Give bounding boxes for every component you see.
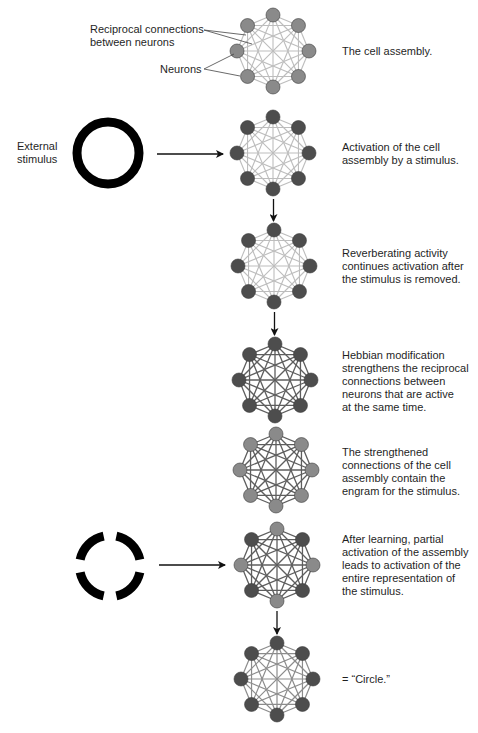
external-stimulus-label: External stimulus — [17, 140, 57, 166]
neuron-node-active — [268, 409, 282, 423]
caption-line: = “Circle.” — [342, 673, 390, 686]
neuron-node-active — [270, 636, 284, 650]
neuron-node-inactive — [291, 69, 305, 83]
neuron-node-active — [231, 259, 245, 273]
neuron-node-inactive — [305, 463, 319, 477]
neuron-node-active — [241, 171, 255, 185]
neuron-node-inactive — [241, 19, 255, 33]
leader-line-neurons-2 — [204, 69, 240, 76]
caption-reverberation: Reverberating activity continues activat… — [342, 247, 464, 286]
neuron-node-active — [304, 373, 318, 387]
caption-line: connections of the cell — [342, 459, 460, 472]
caption-line: at the same time. — [342, 401, 469, 414]
neuron-node-active — [295, 647, 309, 661]
neuron-node-active — [245, 697, 259, 711]
neuron-node-inactive — [244, 488, 258, 502]
neuron-node-active — [291, 171, 305, 185]
caption-line: After learning, partial — [342, 533, 469, 546]
caption-line: leads to activation of the — [342, 559, 469, 572]
neuron-node-active — [230, 146, 244, 160]
neuron-node-inactive — [230, 44, 244, 58]
caption-line: connections between — [342, 375, 469, 388]
caption-line: the stimulus. — [342, 585, 469, 598]
connections-label: Reciprocal connections between neurons — [90, 23, 204, 49]
neuron-node-inactive — [294, 438, 308, 452]
caption-line: entire representation of — [342, 572, 469, 585]
caption-circle-recall: = “Circle.” — [342, 673, 390, 686]
neuron-node-active — [241, 121, 255, 135]
neuron-node-inactive — [266, 8, 280, 22]
neuron-node-inactive — [233, 463, 247, 477]
neuron-node-inactive — [266, 80, 280, 94]
stimulus-arc-segment — [116, 572, 139, 595]
stimulus-arc-segment — [80, 536, 103, 559]
caption-line: the stimulus is removed. — [342, 273, 464, 286]
neuron-node-inactive — [269, 499, 283, 513]
cell-assembly-reverberation — [231, 223, 317, 309]
neuron-node-inactive — [302, 44, 316, 58]
caption-line: The strengthened — [342, 446, 460, 459]
caption-line: Hebbian modification — [342, 349, 469, 362]
neuron-node-active — [291, 121, 305, 135]
neuron-node-inactive — [291, 19, 305, 33]
neuron-node-active — [267, 223, 281, 237]
neuron-node-active — [245, 533, 259, 547]
cell-assembly-cell-assembly — [230, 8, 316, 94]
neuron-node-active — [293, 398, 307, 412]
neuron-node-active — [292, 284, 306, 298]
external-stimulus-label-line: stimulus — [17, 153, 57, 166]
neuron-node-active — [293, 348, 307, 362]
connections-label-line: between neurons — [90, 36, 204, 49]
neuron-node-inactive — [294, 488, 308, 502]
neuron-node-inactive — [306, 558, 320, 572]
neuron-node-active — [295, 697, 309, 711]
caption-line: continues activation after — [342, 260, 464, 273]
neuron-node-active — [306, 672, 320, 686]
caption-line: assembly contain the — [342, 472, 460, 485]
neuron-node-inactive — [270, 594, 284, 608]
cell-assembly-engram — [233, 427, 319, 513]
neuron-node-inactive — [269, 427, 283, 441]
neuron-node-inactive — [241, 69, 255, 83]
neuron-node-active — [234, 672, 248, 686]
neuron-node-active — [302, 146, 316, 160]
neuron-node-active — [268, 337, 282, 351]
stimulus-circle — [77, 122, 139, 184]
caption-cell-assembly: The cell assembly. — [342, 45, 432, 58]
cell-assembly-partial-activation — [234, 522, 320, 608]
caption-hebbian-modification: Hebbian modification strengthens the rec… — [342, 349, 469, 414]
caption-activation: Activation of the cell assembly by a sti… — [342, 141, 459, 167]
neuron-node-active — [292, 234, 306, 248]
neuron-node-active — [245, 583, 259, 597]
caption-line: The cell assembly. — [342, 45, 432, 58]
neuron-node-active — [243, 348, 257, 362]
neuron-node-active — [295, 583, 309, 597]
neuron-node-inactive — [244, 438, 258, 452]
leader-line-neurons-1 — [204, 54, 234, 69]
neurons-label: Neurons — [160, 63, 202, 76]
neuron-node-active — [303, 259, 317, 273]
neuron-node-inactive — [270, 522, 284, 536]
neuron-node-active — [267, 295, 281, 309]
neuron-node-active — [266, 110, 280, 124]
caption-engram: The strengthened connections of the cell… — [342, 446, 460, 498]
connections-label-line: Reciprocal connections — [90, 23, 204, 36]
caption-line: Activation of the cell — [342, 141, 459, 154]
neuron-node-inactive — [234, 558, 248, 572]
neuron-node-active — [270, 708, 284, 722]
caption-line: Reverberating activity — [342, 247, 464, 260]
caption-line: activation of the assembly — [342, 546, 469, 559]
caption-line: assembly by a stimulus. — [342, 154, 459, 167]
stimulus-arc-segment — [116, 536, 139, 559]
caption-line: neurons that are active — [342, 388, 469, 401]
caption-partial-activation: After learning, partial activation of th… — [342, 533, 469, 598]
neuron-node-active — [295, 533, 309, 547]
neuron-node-active — [242, 234, 256, 248]
neuron-node-active — [266, 182, 280, 196]
neuron-node-active — [245, 647, 259, 661]
neuron-node-active — [232, 373, 246, 387]
cell-assembly-hebbian-modification — [232, 337, 318, 423]
stimulus-broken-circle — [80, 536, 140, 596]
caption-line: engram for the stimulus. — [342, 485, 460, 498]
stimulus-arc-segment — [80, 572, 103, 595]
